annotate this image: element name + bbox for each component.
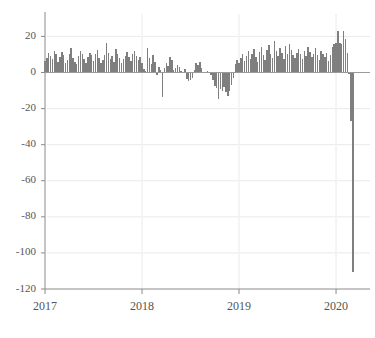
- bar: [147, 48, 148, 72]
- bar: [61, 52, 62, 73]
- bar: [218, 73, 219, 99]
- bar: [136, 56, 137, 72]
- bar: [167, 66, 168, 72]
- bar: [134, 51, 135, 73]
- y-tick-label: -40: [21, 137, 36, 149]
- bar: [289, 44, 290, 73]
- y-tick-label: -20: [21, 101, 36, 113]
- y-tick-label: 20: [25, 29, 37, 41]
- bar: [117, 54, 118, 73]
- bar: [212, 73, 213, 80]
- x-tick-label: 2017: [33, 299, 57, 313]
- bar: [222, 73, 223, 92]
- bar: [242, 54, 243, 73]
- bar: [309, 52, 310, 73]
- y-tick-label: -100: [16, 245, 37, 257]
- bar: [292, 55, 293, 72]
- x-tick-label: 2020: [324, 299, 348, 313]
- bar: [214, 73, 215, 87]
- bar: [277, 56, 278, 72]
- bar: [197, 65, 198, 72]
- bar: [175, 68, 176, 73]
- bar: [132, 54, 133, 72]
- bar: [259, 52, 260, 73]
- bar: [97, 50, 98, 73]
- bar: [195, 63, 196, 73]
- bar: [190, 73, 191, 80]
- bar: [119, 58, 120, 72]
- bar: [128, 57, 129, 72]
- bar: [78, 56, 79, 72]
- bar: [263, 55, 264, 72]
- bar: [91, 55, 92, 72]
- bar: [238, 63, 239, 73]
- bar: [236, 60, 237, 73]
- bar: [304, 51, 305, 73]
- x-tick-label: 2018: [130, 299, 154, 313]
- bar: [82, 54, 83, 72]
- bar: [294, 58, 295, 72]
- bar: [248, 51, 249, 73]
- y-tick-label: -80: [21, 209, 36, 221]
- bar: [76, 64, 77, 72]
- bar: [98, 58, 99, 72]
- bar: [332, 47, 333, 72]
- bar: [69, 54, 70, 73]
- bar: [121, 63, 122, 73]
- bar: [125, 56, 126, 72]
- bar: [225, 73, 226, 93]
- bar: [246, 56, 247, 72]
- bar: [276, 51, 277, 73]
- bar: [283, 59, 284, 73]
- bar: [192, 73, 193, 78]
- bar: [251, 54, 252, 72]
- bar: [311, 57, 312, 72]
- bar: [141, 63, 142, 72]
- bar: [266, 50, 267, 73]
- bar: [343, 31, 344, 72]
- bar: [300, 54, 301, 72]
- bar: [320, 51, 321, 73]
- bar: [291, 50, 292, 73]
- bar: [223, 73, 224, 87]
- bar: [89, 53, 90, 73]
- bar: [268, 45, 269, 72]
- bar: [52, 59, 53, 73]
- y-tick-label: -60: [21, 173, 36, 185]
- bar: [281, 53, 282, 73]
- bar: [85, 63, 86, 72]
- bar: [270, 54, 271, 72]
- bar: [319, 60, 320, 73]
- bar: [123, 59, 124, 73]
- bar: [57, 62, 58, 73]
- bar: [106, 43, 107, 73]
- bar: [216, 73, 217, 88]
- bar: [87, 57, 88, 72]
- bar: [151, 64, 152, 72]
- bar: [115, 49, 116, 72]
- bar: [171, 60, 172, 73]
- bar: [67, 60, 68, 73]
- bar: [184, 69, 185, 73]
- bar: [347, 53, 348, 73]
- bar: [100, 63, 101, 73]
- bar: [279, 48, 280, 72]
- bar: [235, 64, 236, 72]
- bar: [272, 58, 273, 72]
- bar: [143, 69, 144, 73]
- bar: [104, 55, 105, 72]
- bar: [158, 67, 159, 72]
- bar: [244, 61, 245, 73]
- bar: [199, 62, 200, 73]
- bar: [164, 68, 165, 73]
- bar: [126, 52, 127, 73]
- bar: [70, 48, 71, 72]
- bar: [152, 55, 153, 72]
- bar: [285, 46, 286, 72]
- bar: [255, 57, 256, 72]
- bar: [274, 41, 275, 73]
- bars-group: [44, 31, 355, 272]
- bar: [166, 63, 167, 72]
- bar: [130, 61, 131, 73]
- bar: [322, 54, 323, 72]
